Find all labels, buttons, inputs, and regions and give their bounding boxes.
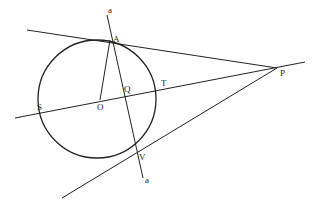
radius-OA xyxy=(100,40,110,100)
label-a-bottom: a xyxy=(145,175,149,185)
label-A: A xyxy=(113,34,120,44)
diagram-labels: aAPTQOSVa xyxy=(37,5,285,185)
geometry-diagram: aAPTQOSVa xyxy=(0,0,318,206)
secant-SOTP xyxy=(15,62,305,118)
label-a-top: a xyxy=(108,5,112,15)
label-Q: Q xyxy=(124,84,131,94)
label-V: V xyxy=(139,152,146,162)
diagram-svg: aAPTQOSVa xyxy=(0,0,318,206)
label-O: O xyxy=(97,102,104,112)
label-S: S xyxy=(37,102,42,112)
circle-O xyxy=(38,40,156,158)
label-T: T xyxy=(161,78,167,88)
label-P: P xyxy=(280,68,285,78)
lower-tangent-PV xyxy=(62,68,277,198)
diagram-lines xyxy=(15,15,305,198)
